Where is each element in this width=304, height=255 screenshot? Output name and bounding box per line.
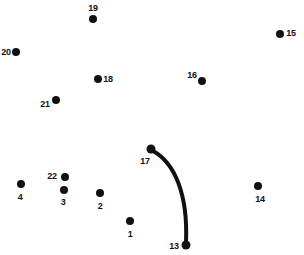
dot-label-3: 3 bbox=[61, 198, 66, 207]
dot-label-22: 22 bbox=[47, 172, 56, 181]
dot-label-20: 20 bbox=[1, 48, 10, 57]
dot-label-21: 21 bbox=[40, 100, 49, 109]
dot-16[interactable] bbox=[198, 77, 206, 85]
connect-the-dots-canvas: 123413141516171819202122 bbox=[0, 0, 304, 255]
dot-label-15: 15 bbox=[286, 29, 295, 38]
dot-label-18: 18 bbox=[103, 75, 112, 84]
dot-15[interactable] bbox=[276, 30, 284, 38]
dot-22[interactable] bbox=[61, 173, 69, 181]
dot-21[interactable] bbox=[52, 96, 60, 104]
dot-label-13: 13 bbox=[169, 242, 178, 251]
curve-17-to-13 bbox=[153, 151, 186, 242]
dot-label-14: 14 bbox=[255, 195, 264, 204]
dot-18[interactable] bbox=[94, 75, 102, 83]
dot-1[interactable] bbox=[126, 217, 134, 225]
dot-label-2: 2 bbox=[98, 202, 103, 211]
dot-label-4: 4 bbox=[18, 193, 23, 202]
dot-20[interactable] bbox=[12, 48, 20, 56]
connection-layer bbox=[0, 0, 304, 255]
dot-13[interactable] bbox=[182, 241, 191, 250]
dot-label-1: 1 bbox=[128, 230, 133, 239]
dot-14[interactable] bbox=[254, 182, 262, 190]
dot-label-17: 17 bbox=[140, 157, 149, 166]
dot-4[interactable] bbox=[17, 180, 25, 188]
dot-label-16: 16 bbox=[187, 71, 196, 80]
dot-label-19: 19 bbox=[88, 4, 97, 13]
dot-19[interactable] bbox=[89, 15, 97, 23]
dot-17[interactable] bbox=[147, 145, 156, 154]
dot-3[interactable] bbox=[60, 186, 68, 194]
dot-2[interactable] bbox=[96, 189, 104, 197]
